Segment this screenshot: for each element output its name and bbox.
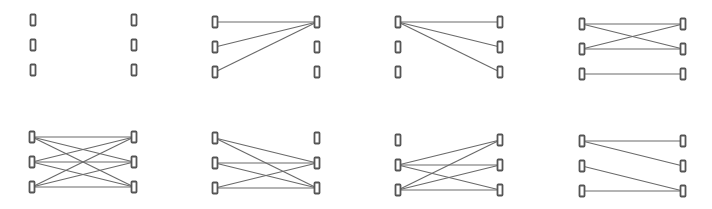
right-node-1: [498, 135, 503, 146]
right-node-1: [315, 17, 320, 28]
edge: [215, 22, 317, 47]
left-node-2: [31, 40, 36, 51]
right-node-2: [498, 160, 503, 171]
right-node-1: [315, 133, 320, 144]
left-node-2: [213, 158, 218, 169]
right-node-3: [132, 65, 137, 76]
edge: [398, 140, 500, 165]
right-node-1: [681, 136, 686, 147]
right-node-3: [498, 185, 503, 196]
graph-panel-bottom-3: [396, 135, 503, 196]
left-node-1: [396, 135, 401, 146]
right-node-1: [681, 19, 686, 30]
right-node-3: [681, 69, 686, 80]
right-node-3: [681, 186, 686, 197]
edge: [582, 166, 683, 191]
left-node-2: [396, 42, 401, 53]
left-node-3: [580, 69, 585, 80]
left-node-1: [396, 17, 401, 28]
graph-panel-top-1: [31, 15, 137, 76]
right-node-2: [132, 157, 137, 168]
left-node-3: [213, 183, 218, 194]
edge: [398, 22, 500, 47]
left-node-2: [580, 44, 585, 55]
right-node-1: [498, 17, 503, 28]
graph-panel-bottom-2: [213, 133, 320, 194]
right-node-1: [132, 15, 137, 26]
left-node-3: [30, 182, 35, 193]
left-node-1: [213, 17, 218, 28]
left-node-1: [580, 19, 585, 30]
graph-panel-top-4: [580, 19, 686, 80]
right-node-2: [498, 42, 503, 53]
right-node-3: [498, 67, 503, 78]
graph-panel-top-3: [396, 17, 503, 78]
right-node-1: [132, 132, 137, 143]
left-node-1: [31, 15, 36, 26]
right-node-2: [681, 44, 686, 55]
right-node-2: [315, 158, 320, 169]
left-node-3: [31, 65, 36, 76]
edge: [582, 141, 683, 166]
right-node-3: [315, 183, 320, 194]
edge: [215, 22, 317, 72]
left-node-3: [396, 67, 401, 78]
edge: [215, 138, 317, 163]
left-node-3: [213, 67, 218, 78]
left-node-2: [396, 160, 401, 171]
bipartite-graph-diagram: [0, 0, 712, 209]
right-node-3: [132, 182, 137, 193]
graph-panel-bottom-1: [30, 132, 137, 193]
right-node-2: [132, 40, 137, 51]
left-node-2: [580, 161, 585, 172]
left-node-3: [396, 185, 401, 196]
edge: [398, 22, 500, 72]
left-node-1: [30, 132, 35, 143]
graph-panel-bottom-4: [580, 136, 686, 197]
left-node-3: [580, 186, 585, 197]
left-node-1: [580, 136, 585, 147]
right-node-2: [315, 42, 320, 53]
left-node-2: [213, 42, 218, 53]
left-node-1: [213, 133, 218, 144]
right-node-2: [681, 161, 686, 172]
graph-panel-top-2: [213, 17, 320, 78]
right-node-3: [315, 67, 320, 78]
left-node-2: [30, 157, 35, 168]
